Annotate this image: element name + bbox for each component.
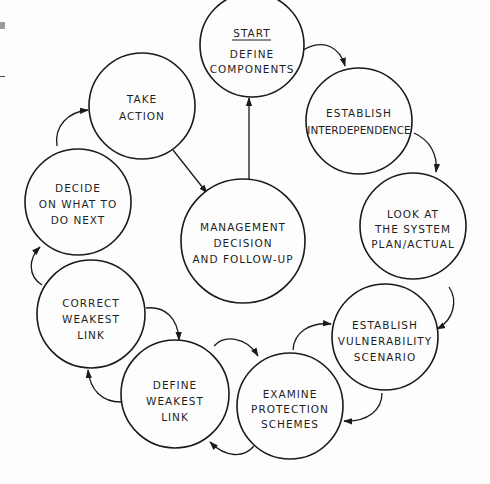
node-text: MANAGEMENT	[200, 221, 286, 233]
node-text: LOOK AT	[387, 208, 439, 220]
arrow-correct-to-decide	[31, 247, 42, 285]
node-text: DEFINE	[230, 48, 274, 60]
arrow-take-action-to-management	[173, 150, 207, 193]
node-correct-weakest-link: CORRECT WEAKEST LINK	[37, 260, 145, 368]
arrow-examine-to-define-weakest	[210, 442, 254, 455]
node-text: SCENARIO	[354, 351, 416, 363]
node-establish-vulnerability-scenario: ESTABLISH VULNERABILITY SCENARIO	[332, 284, 438, 390]
node-text: COMPONENTS	[210, 63, 295, 75]
node-look-at-system: LOOK AT THE SYSTEM PLAN/ACTUAL	[360, 173, 466, 279]
node-decide-what-next: DECIDE ON WHAT TO DO NEXT	[25, 149, 131, 255]
node-management-decision: MANAGEMENT DECISION AND FOLLOW-UP	[181, 179, 305, 303]
node-text: VULNERABILITY	[338, 335, 432, 347]
process-cycle-diagram: START DEFINE COMPONENTS ESTABLISH INTERD…	[0, 0, 490, 484]
node-text: ON WHAT TO	[39, 198, 118, 210]
node-text: WEAKEST	[146, 395, 204, 407]
node-text: EXAMINE	[263, 388, 318, 400]
node-text: PLAN/ACTUAL	[371, 238, 454, 250]
node-text: ACTION	[119, 110, 165, 122]
node-establish-interdependence: ESTABLISH INTERDEPENDENCE	[306, 68, 412, 174]
arrow-examine-to-vulnerability	[293, 324, 331, 350]
node-text: PROTECTION	[251, 403, 329, 415]
arrow-define-weakest-to-examine	[214, 339, 258, 356]
node-text: THE SYSTEM	[374, 223, 451, 235]
arrow-define-weakest-to-correct	[88, 370, 121, 402]
arrow-interdependence-to-look	[414, 133, 436, 172]
node-text: SCHEMES	[261, 418, 319, 430]
arrow-look-to-vulnerability	[437, 287, 454, 329]
node-examine-protection-schemes: EXAMINE PROTECTION SCHEMES	[237, 353, 343, 459]
node-text: AND FOLLOW-UP	[192, 253, 293, 265]
node-text: WEAKEST	[62, 313, 120, 325]
arrow-vulnerability-to-examine	[344, 393, 382, 421]
node-text: DO NEXT	[51, 214, 106, 226]
node-take-action: TAKE ACTION	[89, 53, 195, 159]
start-label: START	[233, 27, 270, 39]
arrow-start-to-interdependence	[303, 45, 345, 66]
node-text: LINK	[161, 411, 189, 423]
node-text: ESTABLISH	[352, 319, 418, 331]
node-start-define-components: START DEFINE COMPONENTS	[200, 0, 304, 97]
node-text: DECISION	[213, 237, 272, 249]
node-define-weakest-link: DEFINE WEAKEST LINK	[121, 340, 229, 448]
node-text: CORRECT	[62, 297, 120, 309]
node-text: LINK	[77, 329, 105, 341]
arrow-correct-to-define-weakest	[146, 308, 179, 340]
arrow-decide-to-take-action	[57, 110, 88, 146]
node-text: TAKE	[126, 93, 157, 105]
node-text: INTERDEPENDENCE	[307, 124, 410, 136]
node-text: DEFINE	[153, 379, 197, 391]
node-text: ESTABLISH	[326, 107, 392, 119]
node-text: DECIDE	[55, 182, 101, 194]
